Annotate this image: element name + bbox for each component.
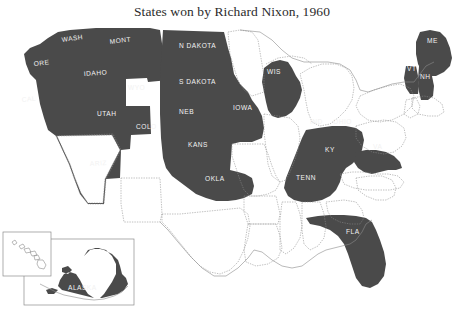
state-label-sdakota: S DAKOTA xyxy=(179,78,216,85)
state-label-me: ME xyxy=(427,37,438,44)
state-label-ind: IND xyxy=(310,118,323,125)
state-label-tenn: TENN xyxy=(296,174,316,181)
state-label-ohio: OHIO xyxy=(333,118,352,125)
state-label-va: VA xyxy=(373,143,382,150)
state-label-ariz: ARIZ xyxy=(90,159,107,167)
state-label-vt: VT xyxy=(407,65,416,72)
state-label-alaska: ALASKA xyxy=(68,284,97,291)
state-label-wis: WIS xyxy=(267,68,281,75)
state-label-utah: UTAH xyxy=(97,110,116,117)
state-shape-virginia xyxy=(354,150,402,174)
state-shape-midsouth-block xyxy=(284,126,364,202)
state-label-colo: COLO xyxy=(136,123,157,130)
state-label-ky: KY xyxy=(325,146,335,153)
insets-layer xyxy=(3,232,134,305)
state-label-nh: NH xyxy=(420,73,431,80)
state-label-iowa: IOWA xyxy=(233,104,252,111)
map-figure: States won by Richard Nixon, 1960 xyxy=(0,0,464,322)
state-shape-florida xyxy=(306,215,386,288)
state-label-neb: NEB xyxy=(179,108,194,115)
state-label-wyo: WYO xyxy=(128,84,145,91)
state-label-kans: KANS xyxy=(188,141,208,148)
map-canvas: WASH MONT ORE IDAHO N DAKOTA S DAKOTA WY… xyxy=(0,18,464,322)
state-border-texas xyxy=(162,208,250,274)
inset-frame-hawaii xyxy=(3,232,51,276)
state-label-ndakota: N DAKOTA xyxy=(179,42,216,49)
state-shape-newmexico xyxy=(121,178,162,222)
state-label-cal: CAL xyxy=(21,95,36,103)
state-label-fla: FLA xyxy=(346,228,360,235)
state-border-northcarolina xyxy=(340,172,404,190)
state-label-okla: OKLA xyxy=(205,175,225,182)
state-border-midatlantic xyxy=(356,84,420,154)
